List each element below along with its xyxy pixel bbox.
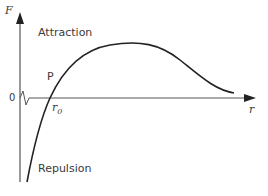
- attraction-label: Attraction: [38, 27, 92, 38]
- y-axis-arrow-icon: [16, 12, 24, 24]
- y-axis-label: F: [5, 5, 13, 16]
- x-axis-arrow-icon: [244, 94, 256, 102]
- repulsion-label: Repulsion: [38, 163, 91, 174]
- origin-label: 0: [9, 93, 15, 103]
- x-axis-label: r: [249, 104, 254, 115]
- axis-break-icon: [20, 91, 29, 105]
- equilibrium-subscript: 0: [57, 107, 62, 116]
- point-p-label: P: [47, 71, 54, 82]
- equilibrium-label: r0: [52, 102, 62, 116]
